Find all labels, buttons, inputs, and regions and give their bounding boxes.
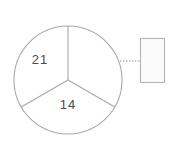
sector-label-bottom: 14: [60, 97, 76, 112]
pie-diagram-figure: 21 14: [0, 0, 177, 143]
answer-box[interactable]: [141, 39, 165, 83]
sector-label-upper-left: 21: [32, 52, 48, 67]
pie-chart-svg: 21 14: [0, 0, 177, 143]
